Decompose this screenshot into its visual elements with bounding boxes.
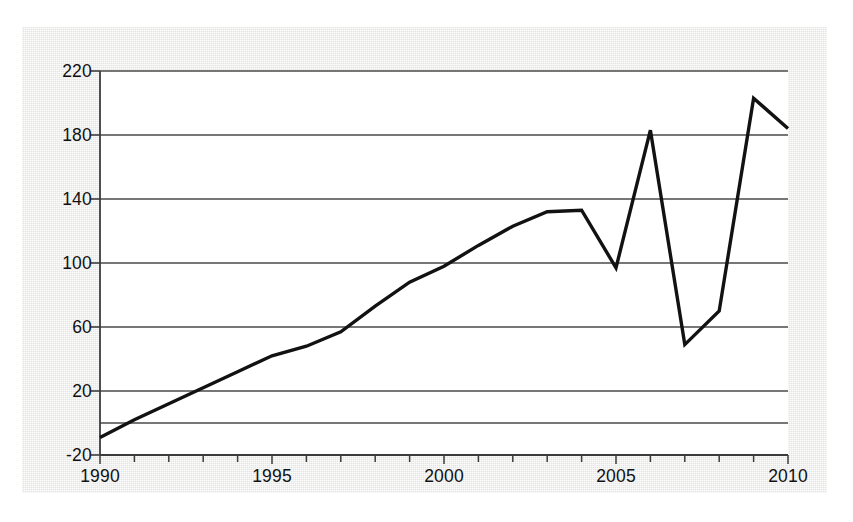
y-tick-label: 140 (38, 189, 92, 210)
gridlines (100, 71, 788, 455)
x-tick-label: 2010 (768, 466, 808, 487)
data-series-line (100, 98, 788, 437)
x-tick-label: 1995 (252, 466, 292, 487)
x-tick-label: 2000 (424, 466, 464, 487)
y-tick-label: 180 (38, 125, 92, 146)
y-tick-label: 20 (38, 381, 92, 402)
y-tick-label: 220 (38, 61, 92, 82)
y-tick-label: 60 (38, 317, 92, 338)
y-tick-label: -20 (38, 445, 92, 466)
x-axis-ticks (100, 455, 788, 464)
x-tick-label: 2005 (596, 466, 636, 487)
chart-page: 2201801401006020-20 19901995200020052010 (0, 0, 853, 522)
x-tick-label: 1990 (80, 466, 120, 487)
line-chart (0, 0, 853, 522)
y-axis-ticks (91, 71, 100, 455)
y-tick-label: 100 (38, 253, 92, 274)
